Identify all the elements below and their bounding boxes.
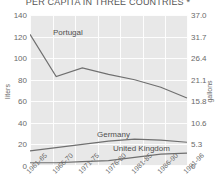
y-axis-tick-label: 20 xyxy=(18,140,27,149)
y-axis-unit-label: liters xyxy=(4,72,11,112)
y-axis-tick-label: 120 xyxy=(14,32,27,41)
series-label-portugal: Portugal xyxy=(53,28,83,37)
series-line-portugal xyxy=(30,34,187,98)
y2-axis-tick-label: 10.6 xyxy=(191,118,207,127)
y-axis-tick-label: 80 xyxy=(18,75,27,84)
chart-title: PER CAPITA IN THREE COUNTRIES * xyxy=(0,0,216,7)
series-label-germany: Germany xyxy=(97,130,130,139)
y2-axis-tick-label: 21.1 xyxy=(191,75,207,84)
y2-axis-tick-label: 5.3 xyxy=(191,140,202,149)
y-axis-tick-label: 60 xyxy=(18,97,27,106)
y2-axis-tick-label: 31.7 xyxy=(191,32,207,41)
y-axis-tick-label: 40 xyxy=(18,118,27,127)
y-axis-tick-label: 140 xyxy=(14,11,27,20)
y2-axis-tick-label: 15.8 xyxy=(191,97,207,106)
y-axis-tick-label: 100 xyxy=(14,54,27,63)
y2-axis-tick-label: 26.4 xyxy=(191,54,207,63)
chart-container: PER CAPITA IN THREE COUNTRIES * Portugal… xyxy=(0,0,216,192)
y2-axis-tick-label: 37.0 xyxy=(191,11,207,20)
